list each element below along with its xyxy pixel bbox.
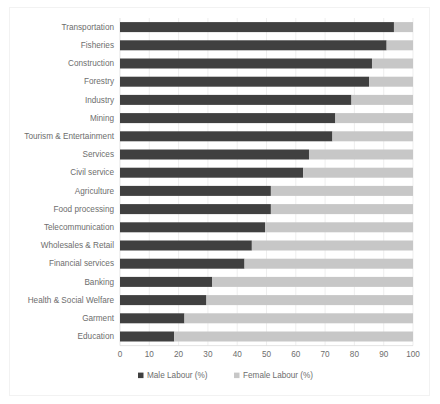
table-row <box>120 131 413 141</box>
category-label: Construction <box>68 59 114 68</box>
category-label: Tourism & Entertainment <box>24 132 114 141</box>
bar-segment-male <box>120 186 271 196</box>
legend-label: Female Labour (%) <box>243 371 313 380</box>
category-label: Industry <box>85 96 115 105</box>
category-label: Health & Social Welfare <box>28 296 115 305</box>
chart-legend: Male Labour (%)Female Labour (%) <box>138 371 313 380</box>
bar-segment-female <box>335 113 413 123</box>
category-label: Mining <box>90 114 115 123</box>
x-tick-label: 80 <box>350 350 360 359</box>
table-row <box>120 77 413 87</box>
table-row <box>120 150 413 160</box>
stacked-bar-chart: TransportationFisheriesConstructionFores… <box>10 8 429 395</box>
category-label: Wholesales & Retail <box>41 241 114 250</box>
bar-segment-male <box>120 332 174 342</box>
bar-segment-male <box>120 259 245 269</box>
bar-segment-male <box>120 241 252 251</box>
x-tick-label: 0 <box>118 350 123 359</box>
table-row <box>120 332 413 342</box>
bar-segment-female <box>252 241 413 251</box>
legend-label: Male Labour (%) <box>147 371 208 380</box>
bar-segment-male <box>120 168 303 178</box>
bar-segment-female <box>303 168 413 178</box>
bar-segment-male <box>120 40 387 50</box>
x-tick-label: 100 <box>406 350 420 359</box>
category-label: Banking <box>84 278 114 287</box>
bar-segment-female <box>174 332 413 342</box>
bar-segment-female <box>351 95 413 105</box>
table-row <box>120 40 413 50</box>
x-tick-label: 40 <box>233 350 243 359</box>
chart-container: TransportationFisheriesConstructionFores… <box>9 7 430 396</box>
bar-segment-male <box>120 77 369 87</box>
category-label: Agriculture <box>75 187 115 196</box>
x-tick-label: 30 <box>203 350 213 359</box>
table-row <box>120 113 413 123</box>
bar-segment-male <box>120 204 271 214</box>
bar-segment-female <box>271 186 413 196</box>
x-tick-label: 70 <box>321 350 331 359</box>
category-label: Telecommunication <box>44 223 115 232</box>
category-label: Food processing <box>53 205 114 214</box>
table-row <box>120 277 413 287</box>
table-row <box>120 168 413 178</box>
category-label: Forestry <box>84 77 115 86</box>
bar-segment-male <box>120 113 335 123</box>
bar-segment-female <box>369 77 413 87</box>
category-label: Services <box>83 150 114 159</box>
bar-segment-female <box>309 150 413 160</box>
table-row <box>120 59 413 69</box>
x-tick-label: 60 <box>291 350 301 359</box>
bar-segment-female <box>394 22 413 32</box>
bar-segment-male <box>120 295 206 305</box>
table-row <box>120 22 413 32</box>
category-label: Civil service <box>70 168 114 177</box>
table-row <box>120 259 413 269</box>
bar-segment-female <box>245 259 413 269</box>
bar-segment-male <box>120 131 332 141</box>
bar-segment-female <box>387 40 413 50</box>
category-label: Transportation <box>62 23 115 32</box>
bar-segment-male <box>120 313 184 323</box>
bar-segment-male <box>120 22 394 32</box>
bar-segment-female <box>332 131 413 141</box>
bar-segment-male <box>120 277 212 287</box>
x-tick-label: 20 <box>174 350 184 359</box>
table-row <box>120 222 413 232</box>
bar-segment-female <box>184 313 413 323</box>
category-label: Garment <box>82 314 115 323</box>
bar-segment-female <box>265 222 413 232</box>
bar-segment-male <box>120 150 309 160</box>
bar-segment-male <box>120 222 265 232</box>
x-tick-label: 50 <box>262 350 272 359</box>
table-row <box>120 186 413 196</box>
bar-segment-female <box>212 277 413 287</box>
table-row <box>120 95 413 105</box>
table-row <box>120 313 413 323</box>
x-tick-label: 90 <box>379 350 389 359</box>
category-label: Financial services <box>49 259 114 268</box>
bar-segment-female <box>206 295 413 305</box>
x-tick-label: 10 <box>145 350 155 359</box>
bar-segment-male <box>120 59 372 69</box>
x-axis-tick-labels: 0102030405060708090100 <box>118 350 421 359</box>
bar-segment-male <box>120 95 351 105</box>
bar-segment-female <box>271 204 413 214</box>
table-row <box>120 241 413 251</box>
category-axis-labels: TransportationFisheriesConstructionFores… <box>24 23 115 341</box>
table-row <box>120 295 413 305</box>
table-row <box>120 204 413 214</box>
legend-swatch <box>138 373 144 379</box>
category-label: Fisheries <box>81 41 114 50</box>
bar-segment-female <box>372 59 413 69</box>
category-label: Education <box>78 332 115 341</box>
legend-swatch <box>234 373 240 379</box>
